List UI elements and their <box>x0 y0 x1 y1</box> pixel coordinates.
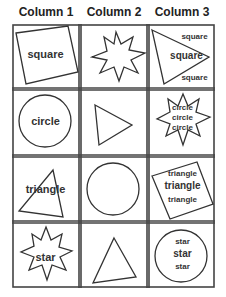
cell-label: circle <box>149 113 216 122</box>
cell-label: square <box>173 73 216 82</box>
triangle-shape <box>93 238 136 283</box>
cell-label: triangle <box>149 180 216 191</box>
cell-label: triangle <box>149 195 216 204</box>
circle-shape <box>87 163 139 215</box>
cell-label: square <box>157 50 216 61</box>
header-column-1: Column 1 <box>12 5 80 19</box>
header-column-2: Column 2 <box>80 5 148 19</box>
cell-label: triangle <box>12 183 79 195</box>
cell-label: circle <box>149 123 216 132</box>
cell-label: square <box>173 32 216 41</box>
star-shape <box>92 32 145 81</box>
cell-label: star <box>149 262 216 271</box>
cell-label: circle <box>12 115 79 127</box>
cell-label: circle <box>149 103 216 112</box>
cell-label: star <box>149 237 216 246</box>
cell-label: star <box>12 251 79 263</box>
cell-label: square <box>12 48 79 60</box>
triangle-shape <box>95 105 132 145</box>
cell-label: triangle <box>149 169 216 178</box>
cell-label: star <box>149 248 216 259</box>
shape-grid: square square square square circle circl… <box>12 24 215 288</box>
header-column-3: Column 3 <box>148 5 216 19</box>
